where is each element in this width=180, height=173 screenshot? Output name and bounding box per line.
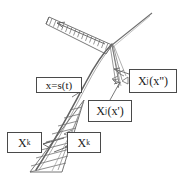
connector-xj-double-prime — [114, 68, 129, 84]
label-shock-curve-text: x=s(t) — [46, 80, 72, 91]
label-xk-left-base: X — [18, 137, 27, 149]
label-xj-double-prime[interactable]: Xj(x") — [129, 69, 177, 93]
label-xj-double-prime-base: X — [138, 75, 147, 87]
label-xj-prime-base: X — [96, 105, 105, 117]
upper-hatched-band — [46, 17, 112, 54]
connector-xj-prime — [110, 82, 120, 100]
label-xk-right-subscript: k — [86, 139, 90, 146]
diagram-canvas: x=s(t) Xk Xk Xj(x') Xj(x") — [0, 0, 180, 173]
label-xj-double-prime-argument: (x") — [149, 75, 168, 87]
label-xk-left[interactable]: Xk — [7, 132, 42, 153]
label-xj-prime[interactable]: Xj(x') — [88, 100, 132, 122]
label-xk-right[interactable]: Xk — [67, 132, 101, 153]
label-shock-curve[interactable]: x=s(t) — [36, 77, 82, 93]
label-xk-left-subscript: k — [27, 139, 31, 146]
upper-right-ray — [112, 13, 152, 47]
label-xk-right-base: X — [78, 137, 87, 149]
label-xj-prime-argument: (x') — [108, 105, 124, 117]
